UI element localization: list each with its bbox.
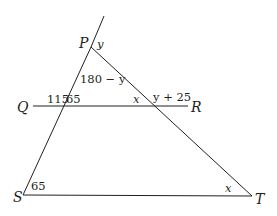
segment-PT [91,47,252,196]
point-label-S: S [13,189,23,205]
angle-label-QR-left-interior: 65 [66,92,81,106]
point-label-R: R [190,99,202,115]
angle-label-QR-right-interior: x [133,92,140,106]
point-label-Q: Q [17,99,29,115]
segment-ST [23,195,252,196]
point-label-T: T [255,191,266,207]
geometry-diagram: P Q R S T y 180 − y 115 65 x y + 25 65 x [0,0,277,216]
segment-PS [23,47,91,195]
angle-label-P-exterior: y [96,37,104,51]
point-label-P: P [78,35,89,51]
angle-label-QR-right-exterior: y + 25 [152,90,191,104]
angle-label-P-interior: 180 − y [80,72,126,86]
angle-label-S: 65 [31,179,46,193]
angle-label-T: x [225,181,232,195]
